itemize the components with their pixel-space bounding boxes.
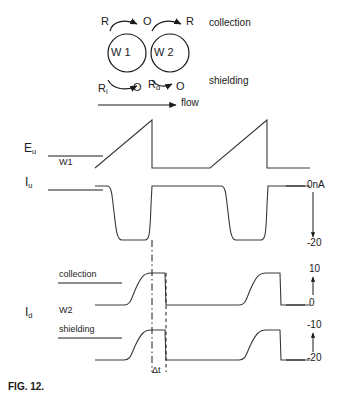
axis-label-eu: Eu xyxy=(24,142,36,156)
axis-id-sub: d xyxy=(28,311,32,320)
scale-label-collection-top: 10 xyxy=(309,264,320,274)
figure-panel: R O R Ri O Rd O W 1 W 2 collection shiel… xyxy=(0,0,353,394)
delta-t-markers xyxy=(152,240,166,372)
figure-caption: FIG. 12. xyxy=(8,381,353,394)
axis-eu-base: E xyxy=(24,141,32,155)
trace-note-shielding: shielding xyxy=(59,325,95,334)
species-rd-sub: d xyxy=(156,83,160,92)
electrode-w1-label: W 1 xyxy=(111,47,131,58)
species-top-right: R xyxy=(186,16,194,27)
species-bottom-far: O xyxy=(176,81,185,92)
trace-note-collection: collection xyxy=(59,270,97,279)
flow-label: flow xyxy=(181,98,199,108)
arrow-r-to-o-w1 xyxy=(110,21,137,31)
species-rd-base: R xyxy=(148,78,156,90)
trace-iu-square xyxy=(95,186,310,240)
figure-vector xyxy=(0,0,353,394)
delta-t-label: Δt xyxy=(152,366,161,375)
trace-note-w1: W1 xyxy=(59,158,73,167)
trace-note-w2: W2 xyxy=(59,306,73,315)
species-top-left: R xyxy=(101,16,109,27)
species-top-mid: O xyxy=(143,16,152,27)
axis-iu-sub: u xyxy=(28,181,32,190)
axis-label-id: Id xyxy=(25,306,33,320)
trace-eu-sawtooth xyxy=(95,120,310,168)
electrode-schematic xyxy=(98,21,189,105)
scale-label-iu-bottom: -20 xyxy=(307,238,321,248)
species-ri-sub: i xyxy=(106,87,108,96)
mode-collection-label: collection xyxy=(209,18,251,28)
scale-label-shielding-top: -10 xyxy=(307,320,321,330)
species-ri-base: R xyxy=(98,82,106,94)
scale-label-collection-bottom: 0 xyxy=(309,298,315,308)
axis-label-iu: Iu xyxy=(25,176,33,190)
scale-label-iu-top: 0nA xyxy=(307,180,325,190)
species-bottom-right: Rd xyxy=(148,79,160,92)
axis-eu-sub: u xyxy=(32,147,36,156)
mode-shielding-label: shielding xyxy=(209,76,248,86)
trace-id-shielding xyxy=(95,330,310,360)
electrode-w2-label: W 2 xyxy=(154,47,174,58)
species-bottom-mid: O xyxy=(133,82,142,93)
species-bottom-left: Ri xyxy=(98,83,108,96)
scale-label-shielding-bottom: -20 xyxy=(307,353,321,363)
arrow-o-to-r-w2 xyxy=(152,21,181,31)
trace-id-collection xyxy=(95,273,310,305)
